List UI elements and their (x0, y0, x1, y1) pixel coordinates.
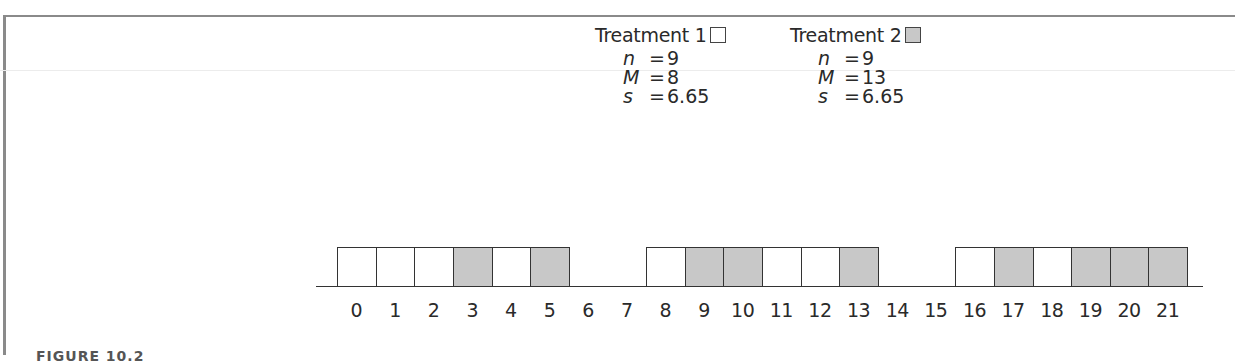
tick-label: 5 (531, 299, 569, 321)
score-box-treatment-1 (646, 247, 686, 287)
tick-label: 13 (840, 299, 878, 321)
gray-square-icon (905, 27, 921, 43)
score-box-treatment-2 (723, 247, 763, 287)
scan-artifact-line (0, 70, 1235, 71)
tick-label: 12 (801, 299, 839, 321)
score-box-treatment-2 (839, 247, 879, 287)
score-box-treatment-1 (414, 247, 454, 287)
tick-label: 1 (376, 299, 414, 321)
score-box-treatment-1 (762, 247, 802, 287)
score-box-treatment-1 (955, 247, 995, 287)
figure-frame-top (4, 15, 1235, 17)
score-box-treatment-2 (1071, 247, 1111, 287)
figure-frame-left (3, 15, 6, 355)
tick-label: 16 (956, 299, 994, 321)
tick-label: 2 (415, 299, 453, 321)
tick-label: 15 (917, 299, 955, 321)
tick-label: 8 (646, 299, 684, 321)
score-box-treatment-2 (1148, 247, 1188, 287)
legend-treatment-1: Treatment 1 (595, 24, 726, 46)
score-box-treatment-2 (685, 247, 725, 287)
score-box-treatment-1 (492, 247, 532, 287)
score-box-treatment-2 (1110, 247, 1150, 287)
tick-label: 10 (724, 299, 762, 321)
legend-label: Treatment 1 (595, 24, 707, 46)
tick-label: 17 (994, 299, 1032, 321)
tick-label: 21 (1149, 299, 1187, 321)
tick-label: 7 (608, 299, 646, 321)
tick-label: 9 (685, 299, 723, 321)
stats-treatment-2: n = 9 M = 13 s = 6.65 (818, 49, 904, 106)
tick-label: 0 (337, 299, 375, 321)
tick-label: 18 (1033, 299, 1071, 321)
legend-label: Treatment 2 (790, 24, 902, 46)
tick-label: 6 (569, 299, 607, 321)
figure-caption: FIGURE 10.2 (36, 348, 144, 364)
legend-treatment-2: Treatment 2 (790, 24, 921, 46)
stat-sd: s = 6.65 (623, 87, 709, 106)
tick-label: 4 (492, 299, 530, 321)
score-box-treatment-1 (376, 247, 416, 287)
stat-sd: s = 6.65 (818, 87, 904, 106)
score-box-treatment-1 (801, 247, 841, 287)
score-box-treatment-2 (994, 247, 1034, 287)
score-box-treatment-2 (453, 247, 493, 287)
score-box-treatment-1 (1032, 247, 1072, 287)
stats-treatment-1: n = 9 M = 8 s = 6.65 (623, 49, 709, 106)
tick-label: 20 (1110, 299, 1148, 321)
white-square-icon (710, 27, 726, 43)
score-box-treatment-1 (337, 247, 377, 287)
tick-label: 11 (762, 299, 800, 321)
tick-label: 3 (453, 299, 491, 321)
score-box-treatment-2 (530, 247, 570, 287)
tick-label: 14 (878, 299, 916, 321)
tick-label: 19 (1071, 299, 1109, 321)
